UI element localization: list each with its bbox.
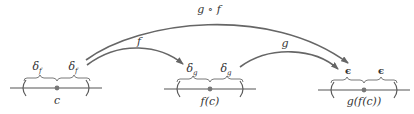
center-point bbox=[362, 88, 367, 93]
composition-continuity-diagram: g ∘ f f g c δf δf f(c) δg δg g(f(c)) ϵ ϵ bbox=[0, 0, 414, 114]
center-label: f(c) bbox=[200, 95, 220, 108]
center-point bbox=[55, 86, 60, 91]
interval-domain: c δf δf bbox=[10, 60, 102, 107]
epsilon-left-label: ϵ bbox=[345, 65, 351, 76]
brace bbox=[24, 75, 90, 81]
delta-right-label: δg bbox=[220, 62, 232, 77]
arrow-g bbox=[240, 52, 338, 69]
delta-left-label: δf bbox=[32, 60, 43, 75]
arrow-gof-label: g ∘ f bbox=[197, 3, 222, 16]
brace bbox=[177, 76, 243, 82]
center-label: c bbox=[54, 94, 60, 107]
arrow-gof bbox=[86, 25, 348, 63]
center-label: g(f(c)) bbox=[347, 95, 381, 108]
interval-middle: f(c) δg δg bbox=[164, 62, 256, 108]
brace bbox=[331, 77, 397, 83]
delta-right-label: δf bbox=[68, 60, 79, 75]
interval-codomain: g(f(c)) ϵ ϵ bbox=[318, 65, 410, 108]
center-point bbox=[208, 87, 213, 92]
arrow-g-label: g bbox=[281, 37, 288, 50]
arrow-f-label: f bbox=[136, 35, 143, 48]
epsilon-right-label: ϵ bbox=[378, 65, 384, 76]
delta-left-label: δg bbox=[186, 62, 198, 77]
